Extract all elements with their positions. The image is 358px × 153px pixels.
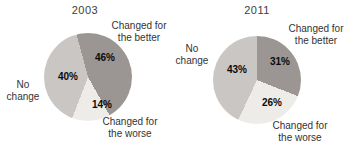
value-label-better-2011: 31%: [262, 56, 298, 67]
value-label-worse-2011: 26%: [254, 97, 290, 108]
chart-title-2011: 2011: [229, 4, 285, 16]
pie-2011: [213, 36, 301, 124]
slice-label-no-change-2011: No change: [170, 43, 214, 67]
slice-label-better-2003: Changed for the better: [103, 20, 175, 44]
value-label-no-change-2003: 40%: [50, 71, 86, 82]
slice-label-worse-2003: Changed for the worse: [94, 116, 166, 140]
slice-label-worse-2011: Changed for the worse: [264, 120, 336, 144]
slice-label-no-change-2003: No change: [1, 79, 45, 103]
value-label-no-change-2011: 43%: [219, 64, 255, 75]
slice-label-better-2011: Changed for the better: [280, 23, 352, 47]
chart-title-2003: 2003: [57, 4, 113, 16]
value-label-worse-2003: 14%: [84, 99, 120, 110]
value-label-better-2003: 46%: [87, 52, 123, 63]
two-pie-figure: 2003 Changed for the better No change Ch…: [0, 0, 358, 153]
